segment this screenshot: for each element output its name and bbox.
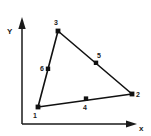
node-marker-3[interactable]	[56, 29, 61, 34]
y-axis	[18, 17, 25, 124]
node-label-4: 4	[83, 104, 87, 111]
x-axis	[22, 121, 137, 128]
node-label-1: 1	[33, 112, 37, 119]
triangle-element-figure: Y x 1 2 3 4 5 6	[0, 0, 151, 136]
midside-node-markers	[46, 61, 98, 101]
x-axis-label: x	[139, 124, 144, 133]
node-marker-1[interactable]	[36, 105, 41, 110]
element-edges	[38, 31, 132, 107]
node-marker-2[interactable]	[130, 92, 135, 97]
y-axis-label: Y	[7, 27, 13, 36]
x-axis-arrowhead	[126, 121, 137, 128]
node-label-3: 3	[54, 19, 58, 26]
node-label-2: 2	[136, 91, 140, 98]
diagram-canvas: Y x 1 2 3 4 5 6	[0, 0, 151, 136]
y-axis-arrowhead	[18, 17, 25, 29]
node-label-5: 5	[97, 52, 101, 59]
node-marker-4[interactable]	[84, 96, 88, 100]
node-marker-6[interactable]	[46, 67, 50, 71]
node-marker-5[interactable]	[94, 61, 98, 65]
node-label-6: 6	[40, 65, 44, 72]
